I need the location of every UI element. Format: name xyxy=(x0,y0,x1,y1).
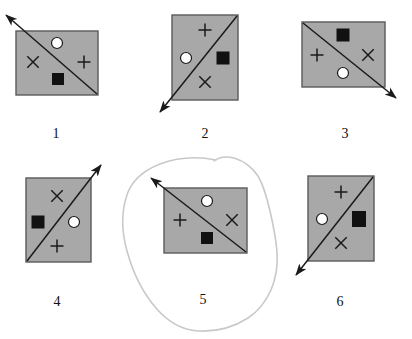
figure-canvas xyxy=(0,0,412,339)
black-square xyxy=(52,73,64,85)
white-circle xyxy=(338,68,349,79)
figure-3[interactable] xyxy=(302,22,396,98)
white-circle xyxy=(202,196,213,207)
white-circle xyxy=(52,38,63,49)
figure-4-label: 4 xyxy=(45,294,69,310)
figure-1-label: 1 xyxy=(44,126,68,142)
black-square xyxy=(32,216,45,229)
figures-layer xyxy=(6,15,396,275)
black-square xyxy=(217,52,230,65)
black-square xyxy=(352,211,366,227)
figure-5-label: 5 xyxy=(191,292,215,308)
figure-6-label: 6 xyxy=(328,294,352,310)
figure-5[interactable] xyxy=(151,178,247,253)
figure-3-label: 3 xyxy=(333,126,357,142)
black-square xyxy=(337,29,350,42)
figure-2[interactable] xyxy=(160,15,238,112)
black-square xyxy=(201,232,213,244)
figure-svg xyxy=(0,0,412,339)
white-circle xyxy=(181,53,192,64)
figure-1[interactable] xyxy=(6,15,98,95)
figure-4[interactable] xyxy=(26,165,101,262)
figure-6[interactable] xyxy=(296,176,374,275)
white-circle xyxy=(317,214,328,225)
figure-2-label: 2 xyxy=(193,126,217,142)
white-circle xyxy=(69,217,80,228)
